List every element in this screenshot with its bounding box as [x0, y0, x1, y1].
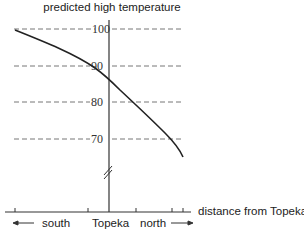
south-label: south	[42, 217, 70, 229]
topeka-label: Topeka	[92, 217, 130, 229]
y-tick-80: 80	[91, 95, 103, 109]
x-axis-label: distance from Topeka	[198, 205, 304, 217]
y-tick-100: 100	[92, 22, 110, 36]
axis-break-icon	[104, 166, 112, 179]
arrow-left-icon	[13, 221, 34, 225]
north-label: north	[140, 217, 166, 229]
temperature-chart: 100 90 80 70 south Topeka north distance…	[0, 0, 304, 242]
arrow-right-icon	[171, 221, 193, 225]
gridlines	[14, 29, 182, 139]
y-tick-70: 70	[91, 132, 103, 146]
